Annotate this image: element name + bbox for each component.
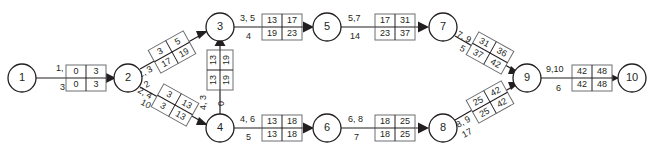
edge-4-6: 4, 6 5 13 18 13 18 [234,114,314,142]
arrow-head-icon [418,22,429,33]
box-ef: 13 [208,55,218,65]
node-label: 1 [19,71,25,83]
node-6[interactable]: 6 [313,114,341,142]
box-es: 13 [208,75,218,85]
node-2[interactable]: 2 [114,64,142,92]
node-label: 10 [626,71,638,83]
box-ls: 23 [380,28,390,38]
edge-8-9: 8, 9 17 25 42 25 42 [454,81,520,140]
box-ls: 13 [267,129,277,139]
time-box: 13 13 19 19 [207,50,233,90]
time-box: 13 17 19 23 [262,14,302,40]
box-ls: 42 [577,79,587,89]
duration-label: 0 [216,101,226,106]
node-label: 9 [524,71,530,83]
arrow-head-icon [196,31,208,39]
node-3[interactable]: 3 [206,13,234,41]
box-es: 42 [577,66,587,76]
box-es: 13 [267,116,277,126]
edge-6-8: 6, 8 7 18 25 18 25 [341,114,429,142]
duration-label: 17 [460,126,474,140]
edge-7-9: 7, 9 5 31 36 37 42 [455,29,520,74]
duration-label: 4 [246,31,251,41]
duration-label: 6 [556,83,561,93]
activity-label: 4, 6 [240,114,255,124]
time-box: 17 31 23 37 [375,14,415,40]
node-label: 4 [217,121,223,133]
activity-network-diagram: 1, 2 3 0 3 0 3 2, 3 2 3 5 [0,0,656,155]
duration-label: 7 [354,132,359,142]
network-canvas: 1, 2 3 0 3 0 3 2, 3 2 3 5 [0,0,656,155]
time-box: 25 42 25 42 [466,81,514,123]
node-label: 5 [324,20,330,32]
box-lf: 25 [400,129,410,139]
edge-9-10: 9,10 6 42 48 42 48 [541,64,619,93]
node-5[interactable]: 5 [313,13,341,41]
duration-label: 3 [60,82,65,92]
node-label: 6 [324,121,330,133]
activity-label: 4, 3 [198,95,208,110]
box-ef: 48 [597,66,607,76]
box-ef: 3 [93,66,98,76]
activity-label: 3, 5 [240,13,255,23]
node-4[interactable]: 4 [206,114,234,142]
box-ls: 0 [73,79,78,89]
box-ef: 31 [400,15,410,25]
edge-1-2: 1, 2 3 0 3 0 3 [36,63,116,92]
duration-label: 5 [458,43,467,54]
box-lf: 23 [287,28,297,38]
duration-label: 14 [350,31,360,41]
activity-label: 9,10 [546,64,564,74]
time-box: 18 25 18 25 [375,115,415,141]
edge-3-5: 3, 5 4 13 17 19 23 [234,13,314,41]
edge-2-3: 2, 3 2 3 5 17 19 [136,31,208,90]
box-ls: 19 [267,28,277,38]
arrow-head-icon [418,123,429,134]
node-10[interactable]: 10 [618,64,646,92]
node-1[interactable]: 1 [8,64,36,92]
box-lf: 3 [93,79,98,89]
box-es: 17 [380,15,390,25]
time-box: 3 5 17 19 [148,31,196,73]
box-lf: 18 [287,129,297,139]
activity-label: 5,7 [348,13,361,23]
duration-label: 5 [246,132,251,142]
box-lf: 19 [221,55,231,65]
duration-label: 10 [139,97,153,111]
edge-4-3: 4, 3 0 13 13 19 19 [198,36,233,114]
time-box: 31 36 37 42 [466,32,514,74]
box-es: 0 [73,66,78,76]
box-ef: 17 [287,15,297,25]
node-label: 3 [217,20,223,32]
node-label: 2 [125,71,131,83]
edge-5-7: 5,7 14 17 31 23 37 [341,13,429,41]
box-ef: 18 [287,116,297,126]
time-box: 13 18 13 18 [262,115,302,141]
time-box: 0 3 0 3 [66,65,106,91]
box-es: 18 [380,116,390,126]
time-box: 42 48 42 48 [572,65,612,91]
node-7[interactable]: 7 [429,13,457,41]
box-ls: 18 [380,129,390,139]
node-label: 8 [440,121,446,133]
activity-label: 6, 8 [348,114,363,124]
node-label: 7 [440,20,446,32]
box-ef: 25 [400,116,410,126]
time-box: 3 13 3 13 [151,84,199,126]
box-es: 13 [267,15,277,25]
node-9[interactable]: 9 [513,64,541,92]
box-ls: 19 [221,75,231,85]
box-lf: 48 [597,79,607,89]
box-lf: 37 [400,28,410,38]
node-8[interactable]: 8 [429,114,457,142]
